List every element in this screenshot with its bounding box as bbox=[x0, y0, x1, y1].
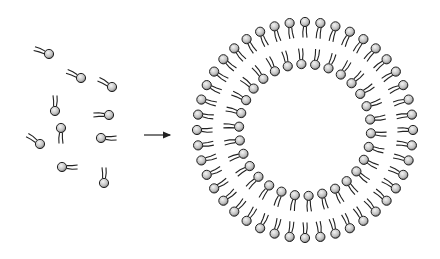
inner-leaflet-lipid bbox=[304, 191, 313, 211]
fatty-acid-tail bbox=[35, 47, 45, 51]
fatty-acid-tail bbox=[317, 50, 319, 61]
fatty-acid-tail bbox=[202, 131, 213, 132]
fatty-acid-tail bbox=[275, 31, 278, 42]
fatty-acid-tail bbox=[292, 27, 294, 38]
fatty-acid-tail bbox=[228, 154, 238, 157]
free-phospholipids bbox=[26, 47, 117, 188]
outer-leaflet-lipid bbox=[242, 35, 257, 54]
fatty-acid-tail bbox=[53, 95, 54, 106]
fatty-acid-tail bbox=[206, 100, 217, 103]
fatty-acid-tail bbox=[314, 49, 315, 60]
fatty-acid-tail bbox=[329, 30, 333, 40]
fatty-acid-tail bbox=[93, 116, 104, 117]
outer-leaflet-lipid bbox=[230, 44, 246, 62]
hydrophilic-head bbox=[324, 64, 333, 73]
fatty-acid-tail bbox=[34, 51, 45, 54]
fatty-acid-tail bbox=[224, 124, 235, 125]
fatty-acid-tail bbox=[67, 168, 78, 169]
outer-leaflet-lipid bbox=[300, 222, 309, 242]
outer-leaflet-lipid bbox=[388, 167, 408, 180]
hydrophilic-head bbox=[57, 162, 66, 171]
outer-leaflet-lipid bbox=[193, 110, 213, 119]
free-phospholipid bbox=[99, 167, 108, 187]
fatty-acid-tail bbox=[397, 131, 408, 132]
fatty-acid-tail bbox=[307, 201, 308, 212]
fatty-acid-tail bbox=[310, 200, 311, 211]
fatty-acid-tail bbox=[303, 27, 304, 38]
fatty-acid-tail bbox=[388, 170, 398, 174]
outer-leaflet-lipid bbox=[300, 17, 309, 37]
inner-leaflet-lipid bbox=[364, 142, 384, 153]
outer-leaflet-lipid bbox=[285, 18, 294, 38]
hydrophilic-head bbox=[318, 189, 327, 198]
fatty-acid-tail bbox=[212, 86, 222, 90]
outer-leaflet-lipid bbox=[382, 178, 401, 193]
hydrophilic-head bbox=[265, 181, 274, 190]
inner-leaflet-lipid bbox=[342, 177, 358, 195]
hydrophilic-head bbox=[210, 184, 219, 193]
free-phospholipid bbox=[96, 133, 116, 142]
fatty-acid-tail bbox=[306, 27, 307, 38]
outer-leaflet-lipid bbox=[202, 81, 222, 94]
fatty-acid-tail bbox=[329, 219, 333, 229]
fatty-acid-tail bbox=[106, 139, 117, 140]
fatty-acid-tail bbox=[277, 219, 281, 229]
fatty-acid-tail bbox=[376, 189, 384, 197]
fatty-acid-tail bbox=[278, 196, 281, 206]
outer-leaflet-lipid bbox=[285, 221, 294, 241]
fatty-acid-tail bbox=[289, 28, 290, 39]
hydrophilic-head bbox=[277, 187, 286, 196]
fatty-acid-tail bbox=[394, 154, 404, 158]
outer-leaflet-lipid bbox=[270, 218, 281, 238]
inner-leaflet-lipid bbox=[266, 56, 279, 75]
fatty-acid-tail bbox=[367, 199, 374, 208]
hydrophilic-head bbox=[242, 35, 251, 44]
outer-leaflet-lipid bbox=[230, 199, 246, 217]
hydrophilic-head bbox=[331, 229, 340, 238]
outer-leaflet-lipid bbox=[256, 27, 269, 47]
fatty-acid-tail bbox=[303, 48, 304, 59]
hydrophilic-head bbox=[391, 67, 400, 76]
fatty-acid-tail bbox=[266, 58, 272, 68]
inner-leaflet-lipid bbox=[246, 172, 263, 189]
fatty-acid-tail bbox=[292, 222, 294, 233]
fatty-acid-tail bbox=[203, 114, 214, 115]
outer-leaflet-lipid bbox=[192, 125, 212, 134]
hydrophilic-head bbox=[99, 178, 108, 187]
inner-leaflet-lipid bbox=[318, 189, 329, 209]
fatty-acid-tail bbox=[275, 218, 278, 229]
hydrophilic-head bbox=[107, 82, 116, 91]
fatty-acid-tail bbox=[374, 61, 383, 68]
hydrophilic-head bbox=[235, 136, 244, 145]
inner-leaflet-lipid bbox=[366, 115, 386, 124]
hydrophilic-head bbox=[256, 224, 265, 233]
outer-leaflet-lipid bbox=[393, 154, 413, 165]
outer-leaflet-lipid bbox=[342, 213, 355, 233]
inner-leaflet-lipid bbox=[223, 122, 243, 131]
fatty-acid-tail bbox=[236, 53, 243, 62]
outer-leaflet-lipid bbox=[197, 95, 217, 106]
fatty-acid-tail bbox=[375, 135, 386, 136]
hydrophilic-head bbox=[234, 122, 243, 131]
outer-leaflet-lipid bbox=[329, 218, 340, 238]
fatty-acid-tail bbox=[359, 175, 367, 182]
outer-leaflet-lipid bbox=[210, 67, 229, 82]
fatty-acid-tail bbox=[375, 119, 386, 120]
hydrophilic-head bbox=[364, 142, 373, 151]
outer-leaflet-lipid bbox=[329, 22, 340, 42]
inner-leaflet-lipid bbox=[331, 184, 344, 203]
hydrophilic-head bbox=[399, 170, 408, 179]
fatty-acid-tail bbox=[224, 140, 235, 141]
fatty-acid-tail bbox=[227, 107, 237, 110]
hydrophilic-head bbox=[104, 110, 113, 119]
hydrophilic-head bbox=[362, 102, 371, 111]
hydrophilic-head bbox=[259, 74, 268, 83]
inner-leaflet-lipid bbox=[236, 161, 255, 176]
fatty-acid-tail bbox=[322, 199, 324, 210]
fatty-acid-tail bbox=[205, 154, 215, 158]
fatty-acid-tail bbox=[333, 218, 336, 229]
hydrophilic-head bbox=[290, 191, 299, 200]
hydrophilic-head bbox=[197, 95, 206, 104]
outer-leaflet-lipid bbox=[256, 213, 269, 233]
fatty-acid-tail bbox=[277, 30, 281, 40]
